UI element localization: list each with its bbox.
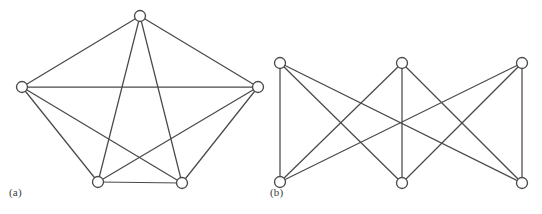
graph-canvas <box>0 0 542 214</box>
graph-vertex-top-right <box>517 58 528 69</box>
graph-vertex-bottom-middle <box>397 178 408 189</box>
panel-label-a: (a) <box>9 186 22 198</box>
graph-vertex-top <box>135 11 146 22</box>
graph-vertex-top-left <box>275 58 286 69</box>
graph-figure: (a) (b) <box>0 0 542 214</box>
graph-vertex-left <box>17 82 28 93</box>
graph-vertex-top-middle <box>397 58 408 69</box>
graph-vertex-right <box>253 82 264 93</box>
graph-edge <box>140 16 182 183</box>
graph-edge <box>98 16 140 182</box>
graph-vertex-bottom-left <box>93 177 104 188</box>
graph-edge <box>140 16 258 87</box>
graph-vertex-bottom-right <box>517 178 528 189</box>
vertices-layer <box>17 11 528 189</box>
edges-layer <box>22 16 522 183</box>
panel-label-b: (b) <box>270 186 283 198</box>
graph-vertex-bottom-right <box>177 178 188 189</box>
graph-edge <box>182 87 258 183</box>
graph-edge <box>22 87 98 182</box>
graph-edge <box>98 182 182 183</box>
graph-edge <box>22 16 140 87</box>
